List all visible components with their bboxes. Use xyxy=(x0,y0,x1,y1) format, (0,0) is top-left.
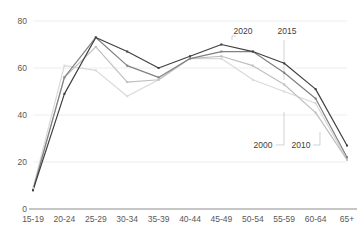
data-point-2020-65+ xyxy=(346,145,348,147)
y-tick-label: 40 xyxy=(18,110,28,120)
data-point-2015-65+ xyxy=(346,156,348,158)
series-line-2020 xyxy=(33,37,347,190)
x-axis-tick-labels: 15-1920-2425-2930-3435-3940-4445-4950-54… xyxy=(22,214,354,224)
data-point-2010-25-29 xyxy=(95,46,97,48)
data-point-2010-55-59 xyxy=(283,83,285,85)
data-point-2020-60-64 xyxy=(315,88,317,90)
x-tick-label: 25-29 xyxy=(85,214,107,224)
y-axis-tick-labels: 020406080 xyxy=(18,16,28,214)
data-point-2020-35-39 xyxy=(158,67,160,69)
series-callout-leaders xyxy=(232,36,320,145)
x-tick-label: 55-59 xyxy=(273,214,295,224)
data-point-2000-20-24 xyxy=(63,65,65,67)
data-point-2020-45-49 xyxy=(220,44,222,46)
y-tick-label: 60 xyxy=(18,63,28,73)
data-point-2020-15-19 xyxy=(32,189,34,191)
x-tick-label: 60-64 xyxy=(305,214,327,224)
series-callout-2000: 2000 xyxy=(254,140,273,150)
data-point-2015-20-24 xyxy=(63,76,65,78)
data-point-2010-60-64 xyxy=(315,112,317,114)
x-tick-label: 65+ xyxy=(340,214,354,224)
series-markers xyxy=(32,36,348,191)
x-tick-label: 35-39 xyxy=(148,214,170,224)
data-point-2015-40-44 xyxy=(189,58,191,60)
y-tick-label: 20 xyxy=(18,157,28,167)
x-tick-label: 20-24 xyxy=(54,214,76,224)
y-tick-label: 0 xyxy=(22,204,27,214)
data-point-2020-20-24 xyxy=(63,93,65,95)
data-point-2015-55-59 xyxy=(283,72,285,74)
data-point-2015-60-64 xyxy=(315,98,317,100)
callout-leader-0 xyxy=(232,36,236,40)
data-point-2015-45-49 xyxy=(220,51,222,53)
line-chart: 020406080 15-1920-2425-2930-3435-3940-44… xyxy=(0,0,363,227)
series-line-2015 xyxy=(33,37,347,190)
data-point-2000-50-54 xyxy=(252,79,254,81)
series-line-2000 xyxy=(33,59,347,188)
data-point-2000-25-29 xyxy=(95,69,97,71)
series-callout-2010: 2010 xyxy=(292,140,311,150)
series-callout-labels: 2020201520002010 xyxy=(234,26,311,150)
x-tick-label: 15-19 xyxy=(22,214,44,224)
data-point-2000-55-59 xyxy=(283,91,285,93)
data-point-2010-45-49 xyxy=(220,55,222,57)
x-tick-label: 50-54 xyxy=(242,214,264,224)
data-point-2020-50-54 xyxy=(252,51,254,53)
data-point-2010-30-34 xyxy=(126,81,128,83)
data-point-2020-55-59 xyxy=(283,62,285,64)
x-tick-label: 45-49 xyxy=(211,214,233,224)
data-point-2000-45-49 xyxy=(220,58,222,60)
data-point-2020-25-29 xyxy=(95,36,97,38)
chart-canvas: 020406080 15-1920-2425-2930-3435-3940-44… xyxy=(0,0,363,227)
data-point-2000-30-34 xyxy=(126,95,128,97)
callout-leader-3 xyxy=(313,132,320,145)
data-point-2010-35-39 xyxy=(158,79,160,81)
data-point-2010-50-54 xyxy=(252,65,254,67)
data-point-2015-35-39 xyxy=(158,76,160,78)
data-point-2000-60-64 xyxy=(315,102,317,104)
x-tick-label: 40-44 xyxy=(179,214,201,224)
x-tick-label: 30-34 xyxy=(116,214,138,224)
data-point-2020-30-34 xyxy=(126,51,128,53)
data-point-2015-30-34 xyxy=(126,65,128,67)
data-point-2010-65+ xyxy=(346,159,348,161)
series-lines xyxy=(33,37,347,190)
callout-leader-2 xyxy=(276,112,284,145)
y-tick-label: 80 xyxy=(18,16,28,26)
data-point-2000-15-19 xyxy=(32,187,34,189)
series-callout-2020: 2020 xyxy=(234,26,253,36)
data-point-2020-40-44 xyxy=(189,55,191,57)
series-callout-2015: 2015 xyxy=(278,26,297,36)
